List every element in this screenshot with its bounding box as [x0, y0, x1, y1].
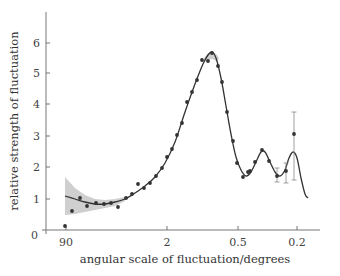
data-point — [267, 159, 271, 163]
data-point — [180, 121, 184, 125]
x-tick-label: 0.5 — [229, 236, 247, 249]
data-point — [78, 196, 82, 200]
data-point — [70, 209, 74, 213]
data-point — [170, 147, 174, 151]
data-point — [206, 59, 210, 63]
data-point — [85, 204, 89, 208]
data-point — [185, 100, 189, 104]
data-point — [175, 133, 179, 137]
data-point — [136, 182, 140, 186]
data-point — [148, 181, 152, 185]
data-point — [63, 224, 67, 228]
data-point — [210, 51, 214, 55]
data-point — [190, 90, 194, 94]
y-tick-label: 5 — [33, 67, 40, 80]
y-tick-label: 4 — [33, 98, 40, 111]
data-point — [94, 201, 98, 205]
data-point — [284, 169, 288, 173]
data-point — [160, 166, 164, 170]
data-point — [154, 174, 158, 178]
y-ticks: 0123456 — [31, 37, 50, 242]
y-tick-label: 2 — [33, 161, 40, 174]
data-point — [142, 186, 146, 190]
y-axis-label: relative strength of fluctuation — [7, 31, 21, 211]
y-tick-label: 0 — [31, 229, 38, 242]
data-point — [235, 161, 239, 165]
uncertainty-band — [65, 177, 125, 215]
data-point — [109, 201, 113, 205]
x-tick-label: 2 — [164, 236, 171, 249]
x-axis-label: angular scale of fluctuation/degrees — [80, 252, 290, 266]
chart: 0123456 9020.50.2 angular scale of fluct… — [0, 0, 340, 276]
y-tick-label: 1 — [33, 193, 40, 206]
model-fit-line — [65, 52, 308, 204]
data-point — [216, 64, 220, 68]
data-point — [241, 175, 245, 179]
data-point — [165, 155, 169, 159]
x-tick-label: 90 — [59, 236, 73, 249]
data-point — [275, 174, 279, 178]
data-point — [225, 110, 229, 114]
x-tick-label: 0.2 — [288, 236, 306, 249]
data-point — [130, 192, 134, 196]
data-point — [253, 160, 257, 164]
data-point — [116, 205, 120, 209]
data-point — [220, 80, 224, 84]
data-point — [248, 169, 252, 173]
data-point — [260, 148, 264, 152]
data-point — [231, 139, 235, 143]
data-point — [292, 132, 296, 136]
y-tick-label: 6 — [33, 37, 40, 50]
data-point — [195, 78, 199, 82]
y-tick-label: 3 — [33, 130, 40, 143]
data-point — [200, 58, 204, 62]
data-point — [102, 202, 106, 206]
x-ticks: 9020.50.2 — [59, 226, 306, 249]
data-point — [124, 196, 128, 200]
